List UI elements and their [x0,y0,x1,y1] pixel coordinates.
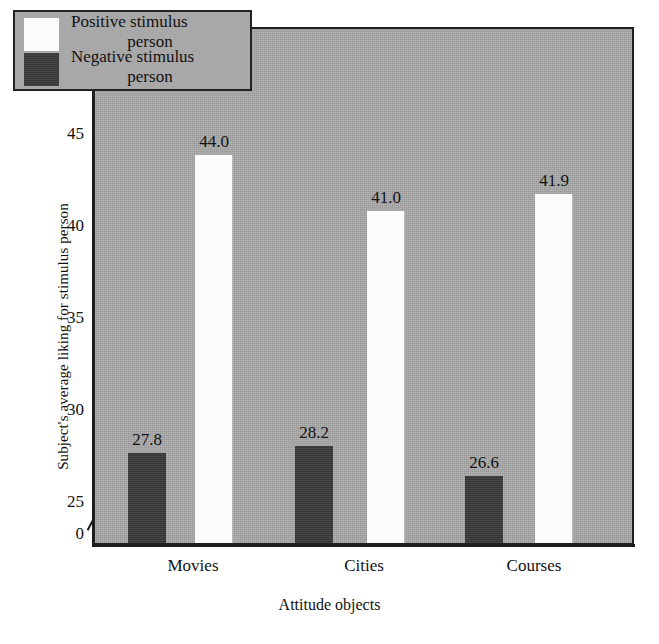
y-axis-title: Subject's average liking for stimulus pe… [55,137,72,537]
y-tick-label-45: 45 [44,124,84,144]
x-tick-label-cities: Cities [294,556,434,576]
bar-value-negative-cities: 28.2 [299,423,329,443]
plot-area: 27.8 44.0 28.2 41.0 26.6 41.9 [93,27,634,545]
legend-label-positive-line1: Positive stimulus [71,12,251,32]
bar-value-positive-movies: 44.0 [199,132,229,152]
bar-negative-movies: 27.8 [128,453,166,543]
y-tick-label-40: 40 [44,216,84,236]
bar-positive-cities: 41.0 [367,211,405,543]
x-tick-label-movies: Movies [123,556,263,576]
y-tick-label-35: 35 [44,308,84,328]
x-axis-line [92,544,635,547]
legend-label-negative: Negative stimulus person [71,47,251,87]
legend-label-negative-line1: Negative stimulus [71,47,251,67]
bar-positive-movies: 44.0 [195,155,233,543]
bar-value-positive-courses: 41.9 [539,171,569,191]
bar-value-negative-courses: 26.6 [469,453,499,473]
x-tick-label-courses: Courses [464,556,604,576]
legend-swatch-positive-icon [24,18,59,51]
bar-value-positive-cities: 41.0 [371,188,401,208]
bar-negative-courses: 26.6 [465,476,503,543]
legend-label-negative-line2: person [71,67,229,87]
legend-swatch-negative-icon [24,53,59,86]
legend-label-positive: Positive stimulus person [71,12,251,52]
bar-positive-courses: 41.9 [535,194,573,543]
bar-chart: Subject's average liking for stimulus pe… [0,0,659,644]
legend: Positive stimulus person Negative stimul… [13,10,252,91]
bar-value-negative-movies: 27.8 [132,430,162,450]
y-tick-label-30: 30 [44,400,84,420]
bar-negative-cities: 28.2 [295,446,333,543]
x-axis-title: Attitude objects [0,596,659,614]
